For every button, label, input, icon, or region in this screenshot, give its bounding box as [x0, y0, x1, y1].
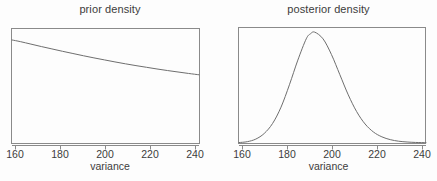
- posterior-plot-frame: [239, 28, 426, 144]
- prior-ticklabel-200: 200: [96, 148, 114, 160]
- prior-density-curve: [12, 40, 199, 75]
- posterior-ticklabel-200: 200: [323, 148, 341, 160]
- prior-ticklabel-180: 180: [51, 148, 69, 160]
- panel-prior-density: prior density 160 180 200 220 240 varian: [0, 0, 220, 181]
- posterior-ticklabel-220: 220: [368, 148, 386, 160]
- prior-ticklabel-160: 160: [6, 148, 24, 160]
- prior-xaxis-label: variance: [0, 160, 220, 172]
- posterior-ticklabel-240: 240: [413, 148, 431, 160]
- prior-ticklabel-220: 220: [141, 148, 159, 160]
- posterior-ticklabel-180: 180: [278, 148, 296, 160]
- figure-canvas: prior density 160 180 200 220 240 varian: [0, 0, 437, 181]
- posterior-density-curve: [239, 32, 426, 143]
- prior-density-plot: 160 180 200 220 240: [0, 0, 220, 181]
- prior-ticklabel-240: 240: [186, 148, 204, 160]
- posterior-xaxis-label: variance: [220, 160, 437, 172]
- posterior-ticklabel-160: 160: [233, 148, 251, 160]
- panel-posterior-density: posterior density 160 180 200 220 240 va…: [220, 0, 437, 181]
- posterior-density-plot: 160 180 200 220 240: [220, 0, 437, 181]
